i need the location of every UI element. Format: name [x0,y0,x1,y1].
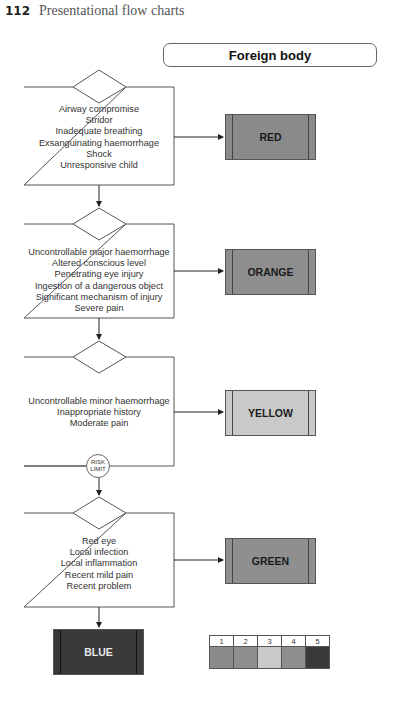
criterion: Significant mechanism of injury [24,292,174,303]
step-1-criteria: Airway compromise Stridor Inadequate bre… [24,104,174,171]
criterion: Uncontrollable minor haemorrhage [24,396,174,407]
box-edge [308,115,309,159]
criterion: Local infection [24,547,174,558]
criterion: Exsanguinating haemorrhage [24,138,174,149]
outcome-label: RED [259,131,281,143]
criterion: Airway compromise [24,104,174,115]
legend-number: 4 [282,636,306,647]
legend-number: 1 [210,636,234,647]
box-edge [232,391,233,435]
step-2-criteria: Uncontrollable major haemorrhage Altered… [24,247,174,314]
outcome-orange: ORANGE [225,249,316,295]
criterion: Recent problem [24,581,174,592]
criterion: Altered conscious level [24,258,174,269]
criterion: Red eye [24,536,174,547]
criterion: Local inflammation [24,558,174,569]
box-edge [232,250,233,294]
box-edge [308,250,309,294]
risk-limit-marker: RISK LIMIT [86,454,110,478]
legend-swatches [210,647,329,668]
box-edge [308,539,309,583]
legend-swatch [306,647,329,668]
outcome-label: BLUE [84,646,113,658]
step-3-criteria: Uncontrollable minor haemorrhage Inappro… [24,396,174,430]
criterion: Penetrating eye injury [24,269,174,280]
outcome-red: RED [225,114,316,160]
criterion: Unresponsive child [24,160,174,171]
box-edge [60,630,61,674]
priority-legend: 1 2 3 4 5 [209,635,330,669]
criterion: Inappropriate history [24,407,174,418]
criterion: Inadequate breathing [24,126,174,137]
outcome-label: ORANGE [247,266,293,278]
legend-swatch [282,647,306,668]
legend-numbers: 1 2 3 4 5 [210,636,329,647]
criterion: Ingestion of a dangerous object [24,281,174,292]
risk-limit-line1: RISK [91,459,105,466]
outcome-yellow: YELLOW [225,390,316,436]
risk-limit-line2: LIMIT [90,466,105,473]
legend-swatch [258,647,282,668]
outcome-green: GREEN [225,538,316,584]
criterion: Shock [24,149,174,160]
criterion: Moderate pain [24,418,174,429]
outcome-blue: BLUE [53,629,144,675]
box-edge [232,539,233,583]
criterion: Uncontrollable major haemorrhage [24,247,174,258]
outcome-label: YELLOW [248,407,293,419]
box-edge [232,115,233,159]
legend-swatch [234,647,258,668]
criterion: Stridor [24,115,174,126]
criterion: Severe pain [24,303,174,314]
outcome-label: GREEN [252,555,289,567]
box-edge [308,391,309,435]
legend-number: 2 [234,636,258,647]
legend-number: 3 [258,636,282,647]
criterion: Recent mild pain [24,570,174,581]
legend-number: 5 [306,636,329,647]
legend-swatch [210,647,234,668]
step-4-criteria: Red eye Local infection Local inflammati… [24,536,174,592]
box-edge [136,630,137,674]
